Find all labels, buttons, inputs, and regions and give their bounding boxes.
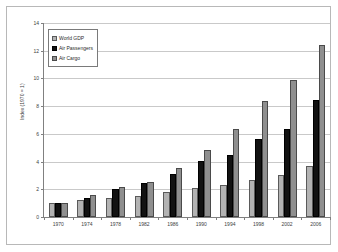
- x-tick-label: 1970: [53, 222, 64, 227]
- x-tick-label: 1994: [224, 222, 235, 227]
- bar-group: [249, 23, 268, 217]
- legend-label-world-gdp: World GDP: [59, 36, 84, 41]
- y-tick-mark: [41, 51, 44, 52]
- x-tick-mark: [244, 217, 245, 220]
- legend-item: Air Passengers: [52, 43, 93, 53]
- bar: [147, 182, 153, 217]
- x-tick-mark: [216, 217, 217, 220]
- bar: [319, 45, 325, 217]
- y-tick-mark: [41, 189, 44, 190]
- x-tick-mark: [301, 217, 302, 220]
- bar-group: [106, 23, 125, 217]
- x-tick-mark: [187, 217, 188, 220]
- y-tick-label: 10: [33, 76, 39, 81]
- bar-group: [278, 23, 297, 217]
- chart-screenshot: Index (1970 = 1) 02468101214 19701974197…: [0, 0, 338, 252]
- y-tick-label: 0: [36, 215, 39, 220]
- x-tick-label: 1982: [139, 222, 150, 227]
- y-axis-title: Index (1970 = 1): [20, 83, 25, 120]
- x-tick-mark: [73, 217, 74, 220]
- y-tick-label: 8: [36, 104, 39, 109]
- x-tick-mark: [101, 217, 102, 220]
- x-tick-mark: [330, 217, 331, 220]
- y-tick-mark: [41, 134, 44, 135]
- bar-group: [135, 23, 154, 217]
- x-tick-label: 2006: [310, 222, 321, 227]
- legend-swatch-world-gdp: [52, 36, 57, 41]
- x-tick-label: 1986: [167, 222, 178, 227]
- y-tick-mark: [41, 23, 44, 24]
- bar: [262, 101, 268, 217]
- y-tick-mark: [41, 162, 44, 163]
- y-tick-label: 2: [36, 187, 39, 192]
- legend-label-air-passengers: Air Passengers: [59, 46, 93, 51]
- bar: [61, 203, 67, 217]
- x-tick-label: 1990: [196, 222, 207, 227]
- bar-group: [220, 23, 239, 217]
- x-tick-label: 1974: [81, 222, 92, 227]
- bar: [204, 150, 210, 217]
- bar: [233, 129, 239, 217]
- x-tick-label: 1998: [253, 222, 264, 227]
- y-tick-label: 14: [33, 21, 39, 26]
- bar: [90, 195, 96, 217]
- bar: [290, 80, 296, 217]
- legend-item: World GDP: [52, 33, 93, 43]
- x-tick-mark: [130, 217, 131, 220]
- y-tick-label: 12: [33, 48, 39, 53]
- y-tick-label: 6: [36, 131, 39, 136]
- x-tick-label: 1978: [110, 222, 121, 227]
- legend-item: Air Cargo: [52, 53, 93, 63]
- legend-swatch-air-cargo: [52, 56, 57, 61]
- legend-swatch-air-passengers: [52, 46, 57, 51]
- bar: [176, 168, 182, 217]
- x-tick-mark: [158, 217, 159, 220]
- bar-group: [163, 23, 182, 217]
- bar-group: [192, 23, 211, 217]
- bar-group: [306, 23, 325, 217]
- x-tick-label: 2002: [282, 222, 293, 227]
- legend-label-air-cargo: Air Cargo: [59, 56, 80, 61]
- y-tick-label: 4: [36, 159, 39, 164]
- x-tick-mark: [273, 217, 274, 220]
- chart-legend: World GDP Air Passengers Air Cargo: [48, 29, 98, 67]
- y-tick-mark: [41, 78, 44, 79]
- x-tick-mark: [44, 217, 45, 220]
- bar: [119, 187, 125, 217]
- figure-frame: Index (1970 = 1) 02468101214 19701974197…: [6, 6, 331, 245]
- y-tick-mark: [41, 106, 44, 107]
